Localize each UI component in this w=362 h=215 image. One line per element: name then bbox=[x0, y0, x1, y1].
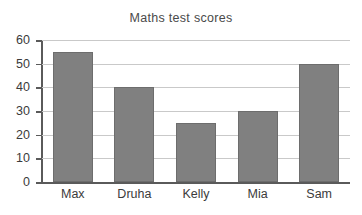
x-tick-label: Max bbox=[42, 188, 104, 201]
y-tick-label: 50 bbox=[16, 58, 30, 71]
y-tick-mark bbox=[36, 158, 42, 160]
chart-title: Maths test scores bbox=[0, 11, 362, 25]
plot-area bbox=[42, 40, 350, 182]
y-tick-mark bbox=[36, 64, 42, 66]
y-tick-mark bbox=[36, 182, 42, 184]
y-tick-label: 30 bbox=[16, 105, 30, 118]
x-tick-label: Mia bbox=[227, 188, 289, 201]
bar-max bbox=[53, 52, 93, 182]
gridline bbox=[42, 40, 350, 41]
y-tick-mark bbox=[36, 111, 42, 113]
bar-kelly bbox=[176, 123, 216, 182]
x-tick-label: Kelly bbox=[165, 188, 227, 201]
y-tick-mark bbox=[36, 40, 42, 42]
y-tick-label: 40 bbox=[16, 81, 30, 94]
y-tick-label: 20 bbox=[16, 129, 30, 142]
y-tick-mark bbox=[36, 135, 42, 137]
x-tick-label: Sam bbox=[288, 188, 350, 201]
bar-sam bbox=[299, 64, 339, 182]
x-axis-baseline bbox=[42, 182, 350, 184]
y-tick-label: 10 bbox=[16, 152, 30, 165]
bar-mia bbox=[238, 111, 278, 182]
bar-chart: Maths test scores 6050403020100MaxDruhaK… bbox=[0, 0, 362, 215]
bar-druha bbox=[114, 87, 154, 182]
y-tick-mark bbox=[36, 87, 42, 89]
y-tick-label: 60 bbox=[16, 34, 30, 47]
x-tick-label: Druha bbox=[104, 188, 166, 201]
y-tick-label: 0 bbox=[23, 176, 30, 189]
